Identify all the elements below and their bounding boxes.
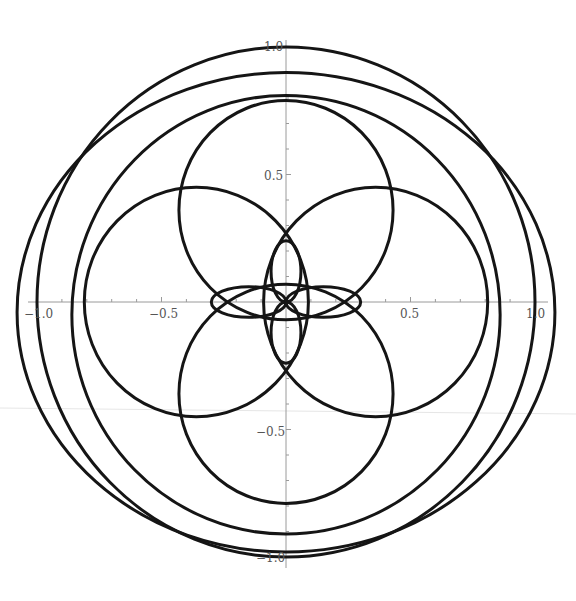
scan-artifact-line [0, 408, 576, 414]
x-tick-label: 0.5 [400, 307, 419, 321]
y-tick-label: −0.5 [256, 425, 285, 439]
y-tick-label: −1.0 [256, 551, 285, 565]
y-tick-label: 0.5 [264, 169, 283, 183]
polar-plot: −1.0 −0.5 0.5 1.0 1.0 0.5 −0.5 −1.0 [0, 0, 576, 601]
x-tick-label: −0.5 [149, 307, 178, 321]
x-tick-label: −1.0 [24, 307, 53, 321]
x-tick-label: 1.0 [526, 307, 545, 321]
y-tick-label: 1.0 [264, 40, 283, 54]
